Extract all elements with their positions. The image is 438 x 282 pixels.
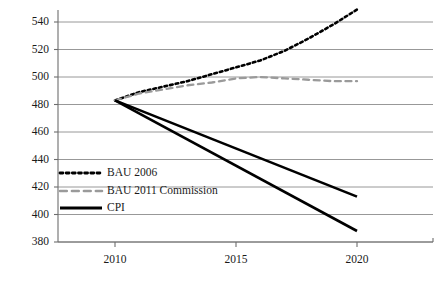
y-tick-label-420: 420 <box>32 180 50 192</box>
x-axis-group <box>58 238 433 247</box>
y-axis-group <box>54 10 58 242</box>
y-tick-label-460: 460 <box>32 125 50 137</box>
y-tick-label-440: 440 <box>32 153 50 165</box>
y-tick-label-520: 520 <box>32 43 50 55</box>
legend-label-bau-2011-commission: BAU 2011 Commission <box>107 184 218 196</box>
series-line-bau-2006-0 <box>115 10 357 101</box>
legend: BAU 2006BAU 2011 CommissionCPI <box>60 166 218 213</box>
y-tick-label-540: 540 <box>32 15 50 27</box>
y-tick-label-400: 400 <box>32 208 50 220</box>
series-line-cpi-2 <box>115 100 357 196</box>
chart-canvas: 380400420440460480500520540 201020152020… <box>0 0 438 282</box>
y-tick-label-500: 500 <box>32 70 50 82</box>
legend-label-bau-2006: BAU 2006 <box>107 166 157 178</box>
x-tick-labels-group: 201020152020 <box>104 253 369 265</box>
x-tick-label-2020: 2020 <box>346 253 369 265</box>
legend-label-cpi: CPI <box>107 201 125 213</box>
y-tick-labels-group: 380400420440460480500520540 <box>32 15 50 247</box>
data-series-group <box>115 10 357 231</box>
line-chart: 380400420440460480500520540 201020152020… <box>0 0 438 282</box>
x-tick-label-2015: 2015 <box>225 253 248 265</box>
y-tick-label-380: 380 <box>32 235 50 247</box>
y-tick-label-480: 480 <box>32 98 50 110</box>
x-tick-label-2010: 2010 <box>104 253 127 265</box>
